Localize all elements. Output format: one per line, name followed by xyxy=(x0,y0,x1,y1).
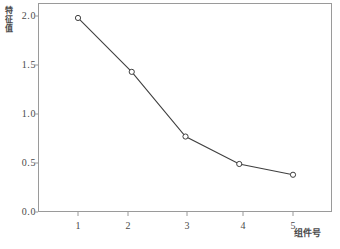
x-tick-label: 3 xyxy=(177,221,197,231)
x-tick-label: 2 xyxy=(118,221,138,231)
scree-plot-figure: 特征值 2.0 1.5 1.0 0.5 0.0 xyxy=(0,0,340,249)
x-tick-label: 1 xyxy=(68,221,88,231)
x-axis-tick-labels: 1 2 3 4 5 xyxy=(0,0,340,249)
x-axis-label: 组件号 xyxy=(294,228,321,238)
x-tick-label: 4 xyxy=(233,221,253,231)
